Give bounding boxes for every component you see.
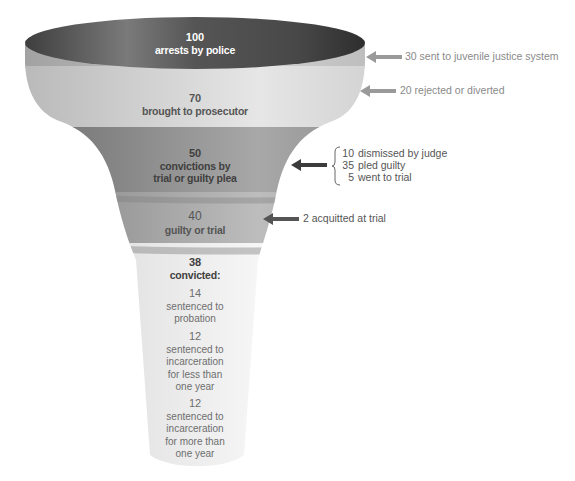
arrow-left-icon bbox=[360, 85, 396, 97]
stage-convictions-text-2: trial or guilty plea bbox=[120, 172, 270, 184]
arrow-left-icon bbox=[263, 213, 299, 225]
stage-arrests-value: 100 bbox=[120, 31, 270, 44]
stage-convicted-value: 38 bbox=[140, 256, 250, 269]
arrow-left-icon bbox=[366, 51, 402, 63]
stage-guilty-label: 40 guilty or trial bbox=[135, 210, 255, 236]
sentence-short-line: sentenced to bbox=[140, 344, 250, 357]
sentence-probation: 14 sentenced to probation bbox=[140, 287, 250, 326]
sentence-short-value: 12 bbox=[140, 330, 250, 344]
sentence-long-line: incarceration bbox=[140, 423, 250, 436]
exit-rejected-note: 20 rejected or diverted bbox=[400, 84, 504, 96]
stage-arrests-label: 100 arrests by police bbox=[120, 31, 270, 56]
exit-acquitted-note: 2 acquitted at trial bbox=[303, 212, 386, 224]
sentence-short-line: for less than bbox=[140, 369, 250, 382]
sentence-incarceration-long: 12 sentenced to incarceration for more t… bbox=[140, 397, 250, 461]
stage-convictions-value: 50 bbox=[120, 147, 270, 160]
stage-arrests-text: arrests by police bbox=[120, 44, 270, 56]
sentence-long-line: one year bbox=[140, 448, 250, 461]
sentence-incarceration-short: 12 sentenced to incarceration for less t… bbox=[140, 330, 250, 394]
stage-guilty-text: guilty or trial bbox=[135, 224, 255, 236]
stage-prosecutor-label: 70 brought to prosecutor bbox=[110, 92, 280, 117]
sentence-long-value: 12 bbox=[140, 397, 250, 411]
stage-convicted-text: convicted: bbox=[140, 269, 250, 281]
breakdown-row: 35pled guilty bbox=[341, 159, 447, 171]
stage-convictions-text-1: convictions by bbox=[120, 160, 270, 172]
sentence-probation-value: 14 bbox=[140, 287, 250, 301]
stage-guilty-value: 40 bbox=[135, 210, 255, 224]
sentence-long-line: sentenced to bbox=[140, 411, 250, 424]
convictions-breakdown: 10dismissed by judge 35pled guilty 5went… bbox=[341, 147, 447, 183]
funnel-graphic bbox=[0, 0, 575, 481]
brace-icon bbox=[331, 146, 341, 186]
sentence-short-line: one year bbox=[140, 381, 250, 394]
breakdown-row: 5went to trial bbox=[341, 171, 447, 183]
stage-prosecutor-text: brought to prosecutor bbox=[110, 105, 280, 117]
stage-convicted-label: 38 convicted: bbox=[140, 256, 250, 281]
breakdown-row: 10dismissed by judge bbox=[341, 147, 447, 159]
sentence-probation-line: probation bbox=[140, 313, 250, 326]
stage-prosecutor-value: 70 bbox=[110, 92, 280, 105]
exit-juvenile-note: 30 sent to juvenile justice system bbox=[405, 50, 559, 62]
sentence-probation-line: sentenced to bbox=[140, 301, 250, 314]
arrow-left-icon bbox=[291, 159, 327, 171]
sentence-short-line: incarceration bbox=[140, 356, 250, 369]
stage-convictions-label: 50 convictions by trial or guilty plea bbox=[120, 147, 270, 184]
sentence-long-line: for more than bbox=[140, 436, 250, 449]
